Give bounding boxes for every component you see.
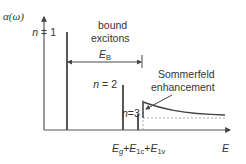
sommerfeld-label: Sommerfeld <box>158 68 215 80</box>
x-axis-label: E <box>222 142 230 154</box>
excitons-label: excitons <box>91 32 130 44</box>
band-gap-label: Eg+E1c+E1v <box>112 142 166 156</box>
n3-label: n=3 <box>122 107 140 119</box>
binding-energy-label: EB <box>99 48 111 62</box>
enhancement-label: enhancement <box>151 81 215 93</box>
bound-label: bound <box>98 19 127 31</box>
n1-label: n = 1 <box>32 26 56 38</box>
exciton-diagram: α(ω) E n = 1 bound excitons EB n = 2 n=3… <box>0 0 246 164</box>
y-axis-label: α(ω) <box>3 10 24 23</box>
n2-label: n = 2 <box>93 78 117 90</box>
